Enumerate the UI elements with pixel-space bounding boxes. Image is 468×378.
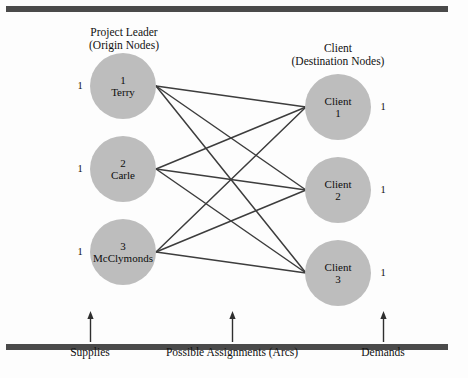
up-arrow-icon [378, 311, 389, 343]
supply-label-3: 1 [73, 246, 87, 257]
destination-node-1-id: Client [325, 95, 352, 108]
destination-node-2: Client 2 [305, 157, 371, 223]
supplies-caption: Supplies [30, 346, 150, 358]
origin-node-2-id: 2 [120, 157, 126, 170]
origin-node-1: 1 Terry [90, 53, 156, 119]
supplies-callout: Supplies [30, 311, 150, 358]
destination-node-2-id: Client [325, 178, 352, 191]
arc-2-client1 [156, 107, 306, 169]
origin-node-3-name: McClymonds [93, 252, 153, 265]
arc-3-client1 [156, 107, 306, 252]
destination-node-1: Client 1 [305, 74, 371, 140]
supply-label-1: 1 [73, 80, 87, 91]
supply-label-2: 1 [73, 163, 87, 174]
origin-node-2-name: Carle [111, 169, 135, 182]
origin-node-1-name: Terry [111, 86, 135, 99]
destination-node-1-name: 1 [335, 107, 341, 120]
demands-callout: Demands [323, 311, 443, 358]
demand-label-3: 1 [376, 267, 390, 278]
destination-node-3: Client 3 [305, 240, 371, 306]
arcs-caption: Possible Assignments (Arcs) [152, 346, 312, 358]
arcs-callout: Possible Assignments (Arcs) [152, 311, 312, 358]
origin-node-1-id: 1 [120, 74, 126, 87]
demand-label-2: 1 [376, 184, 390, 195]
arc-3-client3 [156, 252, 306, 273]
up-arrow-icon [85, 311, 96, 343]
demands-caption: Demands [323, 346, 443, 358]
origin-node-3-id: 3 [120, 240, 126, 253]
origin-node-2: 2 Carle [90, 136, 156, 202]
destination-node-3-id: Client [325, 261, 352, 274]
arc-3-client2 [156, 190, 306, 252]
origin-node-3: 3 McClymonds [90, 219, 156, 285]
demand-label-1: 1 [376, 101, 390, 112]
destination-node-3-name: 3 [335, 273, 341, 286]
destination-node-2-name: 2 [335, 190, 341, 203]
up-arrow-icon [227, 311, 238, 343]
assignment-network-diagram: Project Leader (Origin Nodes) Client (De… [0, 0, 468, 378]
arc-1-client1 [156, 86, 306, 107]
